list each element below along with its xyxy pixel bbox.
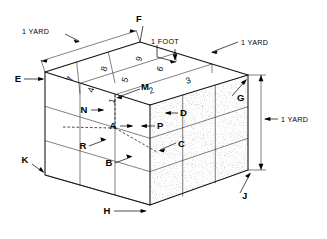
point-label-K: K bbox=[22, 154, 29, 165]
point-label-E: E bbox=[15, 73, 21, 84]
point-label-B: B bbox=[106, 157, 113, 168]
point-label-C: C bbox=[178, 138, 185, 149]
point-label-A: A bbox=[110, 120, 117, 131]
point-label-D: D bbox=[180, 107, 187, 118]
point-label-H: H bbox=[104, 205, 111, 216]
point-label-J: J bbox=[242, 190, 247, 201]
dimension-label-yard-right: 1 YARD bbox=[281, 115, 308, 124]
point-label-G: G bbox=[237, 92, 244, 103]
point-label-F: F bbox=[136, 13, 142, 24]
point-label-R: R bbox=[80, 140, 87, 151]
dimension-label-yard-top-left: 1 YARD bbox=[22, 27, 49, 36]
point-label-N: N bbox=[81, 104, 88, 115]
cube-diagram: 7 8 9 4 5 6 1 2 3 1 YARD 1 FOOT 1 bbox=[0, 0, 327, 239]
point-label-M: M bbox=[141, 81, 149, 92]
dimension-label-yard-top-right: 1 YARD bbox=[241, 38, 268, 47]
dimension-label-foot-top: 1 FOOT bbox=[151, 37, 179, 46]
cube-diagram-svg: 7 8 9 4 5 6 1 2 3 1 YARD 1 FOOT 1 bbox=[0, 0, 327, 239]
point-label-P: P bbox=[157, 120, 164, 131]
